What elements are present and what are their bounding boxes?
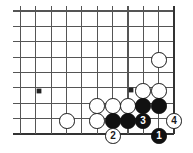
stone-move-number: 4 [171, 116, 177, 126]
stone-white-r6-c8 [135, 83, 151, 99]
stone-white-r6-c9 [151, 83, 167, 99]
stone-white-r7-c6 [105, 98, 121, 114]
go-board-diagram: 3421 [0, 0, 193, 153]
stone-white-move-2: 2 [105, 128, 121, 144]
stone-white-upper-right [151, 52, 167, 68]
stone-black-r8-c7 [120, 113, 136, 129]
stone-black-r7-c9 [151, 98, 167, 114]
stone-white-move-4: 4 [166, 113, 182, 129]
stone-black-move-1: 1 [151, 128, 167, 144]
stone-white-r8-c5 [89, 113, 105, 129]
stone-move-number: 1 [156, 131, 162, 141]
stone-white-r7-c5 [89, 98, 105, 114]
stone-move-number: 2 [110, 131, 116, 141]
stone-layer: 3421 [0, 0, 193, 153]
stone-white-r7-c7 [120, 98, 136, 114]
stone-black-move-3: 3 [135, 113, 151, 129]
stone-black-r7-c8 [135, 98, 151, 114]
stone-black-r8-c6 [105, 113, 121, 129]
stone-white-left-lone [59, 113, 75, 129]
stone-move-number: 3 [140, 116, 146, 126]
